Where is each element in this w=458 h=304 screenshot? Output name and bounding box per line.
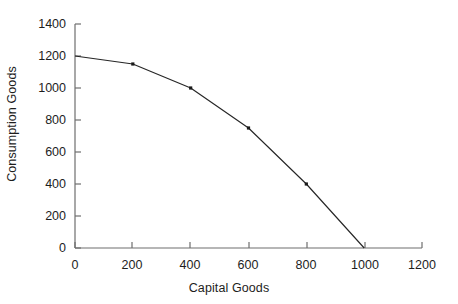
series-line-ppf bbox=[75, 56, 364, 248]
data-point-marker bbox=[131, 62, 134, 65]
plot-area bbox=[0, 0, 458, 304]
data-point-marker bbox=[305, 182, 308, 185]
data-point-marker bbox=[189, 86, 192, 89]
chart-container: Consumption Goods Capital Goods 1400 120… bbox=[0, 0, 458, 304]
y-axis-ticks bbox=[75, 24, 81, 248]
x-axis-ticks bbox=[75, 242, 422, 248]
data-point-marker bbox=[247, 126, 250, 129]
series-markers bbox=[131, 62, 308, 185]
